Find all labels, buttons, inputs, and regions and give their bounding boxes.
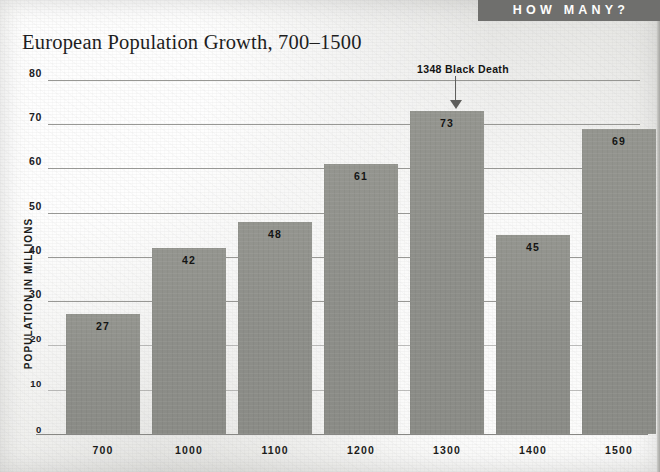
xtick-1300: 1300 (410, 444, 484, 456)
gridline-80 (48, 80, 640, 81)
ytick-40: 40 (0, 244, 42, 256)
annotation-label-black-death: 1348 Black Death (417, 63, 509, 75)
bar-chart: 80 70 60 50 40 30 20 10 0 POPULATION IN … (0, 0, 660, 472)
bar-value-1100: 48 (268, 228, 282, 240)
ytick-10: 10 (0, 378, 42, 389)
bar-value-1200: 61 (354, 170, 368, 182)
bar-1200[interactable] (324, 164, 398, 434)
ytick-80: 80 (0, 67, 42, 79)
xtick-1400: 1400 (496, 444, 570, 456)
ytick-30: 30 (0, 288, 42, 300)
ytick-70: 70 (0, 111, 42, 123)
ytick-20: 20 (0, 333, 42, 344)
annotation-arrow-head-icon (450, 100, 462, 109)
bar-1100[interactable] (238, 222, 312, 434)
bar-1300[interactable] (410, 111, 484, 434)
bar-value-1000: 42 (182, 254, 196, 266)
bar-1400[interactable] (496, 235, 570, 434)
bar-value-1300: 73 (440, 117, 454, 129)
xtick-700: 700 (66, 444, 140, 456)
annotation-arrow-stem (455, 76, 456, 102)
bar-1000[interactable] (152, 248, 226, 434)
bar-value-700: 27 (96, 320, 110, 332)
xtick-1200: 1200 (324, 444, 398, 456)
y-axis-label: POPULATION IN MILLIONS (23, 196, 34, 392)
gridline-70 (48, 124, 640, 125)
bar-700[interactable] (66, 314, 140, 434)
bar-value-1500: 69 (612, 135, 626, 147)
ytick-50: 50 (0, 200, 42, 212)
bar-1500[interactable] (582, 129, 656, 434)
xtick-1100: 1100 (238, 444, 312, 456)
ytick-60: 60 (0, 155, 42, 167)
xtick-1500: 1500 (582, 444, 656, 456)
x-axis-line (36, 434, 648, 435)
bar-value-1400: 45 (526, 241, 540, 253)
xtick-1000: 1000 (152, 444, 226, 456)
